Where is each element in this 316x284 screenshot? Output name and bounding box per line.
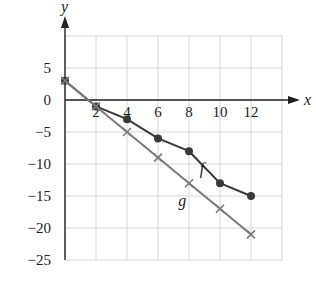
x-tick-label: 6 bbox=[154, 104, 162, 120]
y-axis-label: y bbox=[59, 0, 69, 16]
dot-marker-icon bbox=[247, 192, 255, 200]
axes bbox=[61, 16, 300, 260]
dot-marker-icon bbox=[154, 134, 162, 142]
x-tick-label: 10 bbox=[213, 104, 228, 120]
x-tick-label: 12 bbox=[244, 104, 259, 120]
y-tick-label: −20 bbox=[28, 220, 51, 236]
y-tick-label: −25 bbox=[28, 252, 51, 268]
series-label-g: g bbox=[178, 192, 186, 210]
y-tick-label: −10 bbox=[28, 156, 51, 172]
x-tick-label: 8 bbox=[185, 104, 193, 120]
y-tick-label: −15 bbox=[28, 188, 51, 204]
line-chart: 2468101250−5−10−15−20−25 fg x y bbox=[0, 0, 316, 284]
y-tick-label: 5 bbox=[44, 60, 52, 76]
dot-marker-icon bbox=[216, 179, 224, 187]
x-axis-label: x bbox=[303, 91, 311, 108]
y-tick-label: −5 bbox=[35, 124, 51, 140]
dot-marker-icon bbox=[123, 115, 131, 123]
x-axis-arrow-icon bbox=[288, 96, 300, 104]
y-axis-arrow-icon bbox=[61, 16, 69, 28]
grid bbox=[65, 36, 282, 260]
y-tick-label: 0 bbox=[44, 92, 52, 108]
dot-marker-icon bbox=[185, 147, 193, 155]
